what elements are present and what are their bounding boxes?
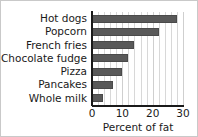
bar	[92, 15, 177, 23]
x-axis-title: Percent of fat	[92, 121, 184, 133]
x-tick-label: 10	[116, 107, 129, 119]
bar-row	[92, 39, 183, 52]
bar	[92, 94, 103, 102]
bar	[92, 81, 113, 89]
gridline	[183, 12, 184, 105]
bar-row	[92, 52, 183, 65]
x-tick-label: 30	[176, 107, 189, 119]
bar	[92, 28, 159, 36]
category-label: Pancakes	[38, 78, 87, 91]
bar	[92, 68, 122, 76]
bar	[92, 54, 128, 62]
x-axis-line	[92, 105, 184, 107]
bar-row	[92, 92, 183, 105]
category-label: French fries	[26, 39, 87, 52]
category-label: Chocolate fudge	[1, 52, 87, 65]
category-label: Whole milk	[29, 92, 87, 105]
plot-area	[92, 12, 183, 105]
category-label: Popcorn	[45, 25, 87, 38]
category-axis-labels: Hot dogsPopcornFrench friesChocolate fud…	[1, 12, 89, 105]
category-label: Hot dogs	[40, 12, 87, 25]
x-tick-label: 0	[89, 107, 96, 119]
bar-row	[92, 12, 183, 25]
x-tick-label: 20	[146, 107, 159, 119]
bar-chart-figure: Hot dogsPopcornFrench friesChocolate fud…	[0, 0, 198, 137]
category-label: Pizza	[61, 65, 87, 78]
bar	[92, 41, 134, 49]
bar-row	[92, 78, 183, 91]
y-axis-line	[91, 11, 93, 106]
bar-row	[92, 25, 183, 38]
bar-row	[92, 65, 183, 78]
